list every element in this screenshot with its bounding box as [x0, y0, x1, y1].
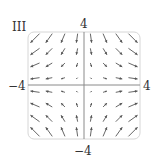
vector-field-plot	[0, 0, 157, 167]
